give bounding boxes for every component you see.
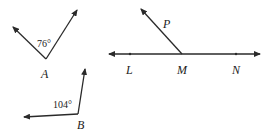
angle-b-up-ray bbox=[78, 69, 85, 114]
angle-b-vertex-label: B bbox=[77, 118, 85, 132]
ray-mp bbox=[141, 9, 182, 54]
geometry-figure: 76° A 104° B P L M N bbox=[0, 0, 270, 138]
angle-b-measure: 104° bbox=[53, 99, 72, 110]
angle-a-vertex-label: A bbox=[40, 67, 49, 81]
angle-a: 76° A bbox=[13, 10, 77, 81]
line-lmn: P L M N bbox=[109, 9, 260, 77]
ray-label-p: P bbox=[162, 17, 171, 31]
angle-a-right-ray bbox=[46, 10, 77, 59]
point-label-n: N bbox=[231, 63, 241, 77]
point-label-m: M bbox=[176, 63, 188, 77]
angle-a-measure: 76° bbox=[37, 38, 51, 49]
point-l-mark bbox=[129, 53, 131, 55]
point-n-mark bbox=[235, 53, 237, 55]
angle-b-left-ray bbox=[24, 114, 78, 117]
angle-b: 104° B bbox=[24, 69, 85, 132]
point-label-l: L bbox=[125, 63, 133, 77]
